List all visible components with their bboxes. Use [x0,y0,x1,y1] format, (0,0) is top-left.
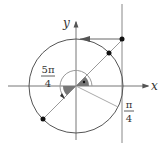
unit-circle-diagram: y x 5π 4 π 4 [0,0,162,145]
x-axis-label: x [151,79,158,93]
pi-over-4-numerator: π [126,99,133,110]
arc-arrowhead-icon [60,93,65,99]
five-pi-over-4-numerator: 5π [42,64,55,75]
circle-point-pi-4 [107,51,112,56]
pi-4-leader-line [76,86,118,107]
circle-point-5pi-4 [41,117,46,122]
sector-pi-4 [76,77,89,86]
tangent-point [120,37,125,42]
arrowhead-left-icon [80,36,90,42]
y-axis-label: y [62,16,70,30]
sector-pi-4-dot [83,81,85,83]
five-pi-over-4-denominator: 4 [45,78,51,89]
pi-over-4-denominator: 4 [126,113,132,124]
sector-5pi-4 [63,86,76,95]
